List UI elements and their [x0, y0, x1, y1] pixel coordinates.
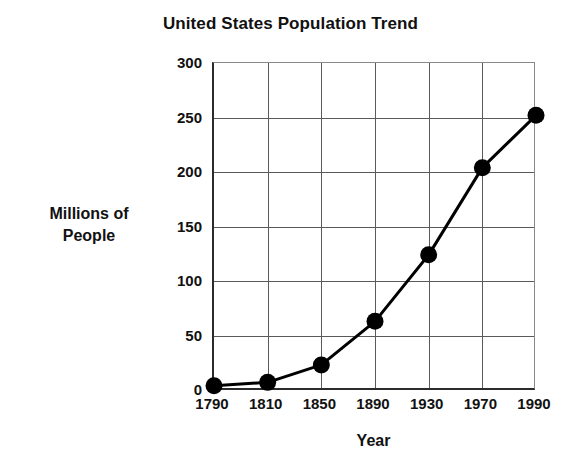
- data-point-marker: 1990: 252: [528, 107, 545, 124]
- data-point-marker: 1850: 23: [313, 356, 330, 373]
- chart-title: United States Population Trend: [0, 14, 581, 34]
- y-axis-tick-label: 150: [142, 219, 202, 234]
- population-series: 1790: 41810: 71850: 231890: 631930: 1241…: [214, 63, 537, 391]
- data-point-marker: 1810: 7: [259, 374, 276, 391]
- series-line: [214, 115, 536, 385]
- data-point-marker: 1890: 63: [367, 313, 384, 330]
- y-axis-tick-label: 50: [142, 328, 202, 343]
- y-axis-title-line-1: Millions of: [18, 203, 160, 225]
- x-axis-tick-labels: 1790181018501890193019701990: [212, 396, 535, 418]
- population-trend-chart: United States Population Trend Millions …: [0, 0, 581, 465]
- y-axis-tick-labels: 050100150200250300: [140, 62, 202, 390]
- y-axis-tick-label: 200: [142, 164, 202, 179]
- y-axis-tick-label: 300: [142, 55, 202, 70]
- plot-area: 1790: 41810: 71850: 231890: 631930: 1241…: [212, 62, 535, 390]
- data-point-marker: 1790: 4: [206, 377, 223, 394]
- x-axis-tick-label: 1990: [499, 396, 569, 411]
- y-axis-tick-label: 0: [142, 382, 202, 397]
- data-point-marker: 1930: 124: [420, 246, 437, 263]
- data-point-marker: 1970: 204: [474, 159, 491, 176]
- x-axis-title: Year: [212, 432, 535, 450]
- y-axis-tick-label: 100: [142, 273, 202, 288]
- y-axis-title-line-2: People: [18, 225, 160, 247]
- y-axis-tick-label: 250: [142, 110, 202, 125]
- y-axis-title: Millions of People: [18, 203, 160, 246]
